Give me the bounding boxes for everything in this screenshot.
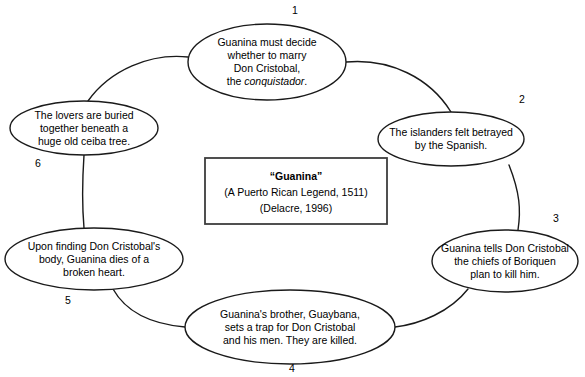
node-4-number-label: 4 bbox=[289, 362, 295, 374]
node-4-line-0: Guanina's brother, Guaybana, bbox=[220, 308, 360, 320]
center-title-box: “Guanina”(A Puerto Rican Legend, 1511)(D… bbox=[205, 158, 387, 224]
node-4[interactable]: Guanina's brother, Guaybana,sets a trap … bbox=[185, 290, 395, 374]
node-2-number-label: 2 bbox=[519, 93, 525, 105]
node-1-line-3: the conquistador. bbox=[227, 75, 308, 87]
node-4-line-2: and his men. They are killed. bbox=[223, 334, 357, 346]
center-box-subtitle: (A Puerto Rican Legend, 1511) bbox=[224, 186, 367, 198]
cycle-diagram: Guanina must decidewhether to marryDon C… bbox=[0, 0, 585, 377]
node-2-line-1: by the Spanish. bbox=[415, 139, 487, 151]
connector-2-to-3 bbox=[509, 165, 519, 230]
node-1-line-1: whether to marry bbox=[227, 49, 308, 61]
node-1-line-0: Guanina must decide bbox=[217, 36, 316, 48]
node-3[interactable]: Guanina tells Don Cristobalthe chiefs of… bbox=[432, 212, 578, 292]
connector-5-to-6 bbox=[83, 155, 85, 228]
node-6-line-0: The lovers are buried bbox=[34, 109, 133, 121]
connector-3-to-4 bbox=[395, 289, 468, 327]
node-5-line-0: Upon finding Don Cristobal's bbox=[28, 240, 161, 252]
node-3-line-1: the chiefs of Boriquen bbox=[454, 255, 556, 267]
node-4-text: Guanina's brother, Guaybana,sets a trap … bbox=[220, 308, 360, 346]
center-box-citation: (Delacre, 1996) bbox=[260, 202, 332, 214]
node-5[interactable]: Upon finding Don Cristobal'sbody, Guanin… bbox=[5, 228, 183, 306]
node-1-line-2: Don Cristobal, bbox=[234, 62, 301, 74]
node-2-line-0: The islanders felt betrayed bbox=[389, 126, 513, 138]
center-box-title: “Guanina” bbox=[270, 170, 323, 182]
node-1[interactable]: Guanina must decidewhether to marryDon C… bbox=[188, 4, 346, 100]
diagram-canvas: Guanina must decidewhether to marryDon C… bbox=[0, 0, 585, 377]
connector-1-to-2 bbox=[346, 61, 451, 112]
node-6-line-2: huge old ceiba tree. bbox=[38, 135, 130, 147]
connector-4-to-5 bbox=[113, 289, 185, 327]
connector-6-to-1 bbox=[88, 56, 188, 101]
node-3-line-0: Guanina tells Don Cristobal bbox=[441, 242, 569, 254]
node-6-number-label: 6 bbox=[35, 157, 41, 169]
center-box-layer: “Guanina”(A Puerto Rican Legend, 1511)(D… bbox=[205, 158, 387, 224]
node-6-line-1: together beneath a bbox=[40, 122, 128, 134]
node-5-line-2: broken heart. bbox=[63, 266, 125, 278]
node-1-number-label: 1 bbox=[292, 4, 298, 16]
node-5-number-label: 5 bbox=[65, 294, 71, 306]
node-4-line-1: sets a trap for Don Cristobal bbox=[225, 321, 356, 333]
node-6-text: The lovers are buriedtogether beneath ah… bbox=[34, 109, 133, 147]
node-2[interactable]: The islanders felt betrayedby the Spanis… bbox=[378, 93, 525, 166]
node-3-number-label: 3 bbox=[553, 212, 559, 224]
node-5-line-1: body, Guanina dies of a bbox=[39, 253, 149, 265]
node-3-line-2: plan to kill him. bbox=[470, 268, 539, 280]
